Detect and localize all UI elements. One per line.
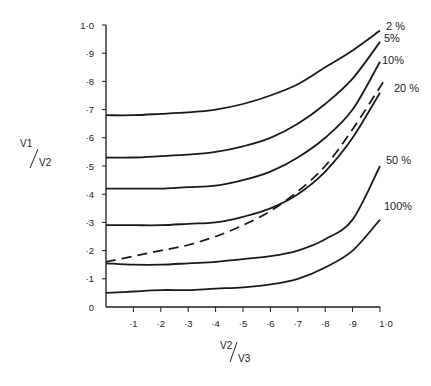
curve-label-100pct: 100%	[384, 200, 412, 212]
curve-label-20pct: 20 %	[394, 82, 419, 94]
y-tick-label: 0	[89, 302, 94, 313]
curve-label-2pct: 2 %	[386, 20, 405, 32]
curve-20pct	[106, 93, 380, 226]
x-tick-label: ·3	[184, 318, 192, 329]
chart: 0·1·2·3·4·5·6·7·8·91·0·1·2·3·4·5·6·7·8·9…	[0, 0, 431, 386]
y-axis-title-denominator: V2	[39, 157, 52, 168]
x-tick-label: ·1	[129, 318, 137, 329]
y-axis-title: V1 V2	[20, 138, 52, 168]
curves	[106, 31, 386, 293]
y-tick-label: ·5	[86, 161, 94, 172]
x-axis-title: V2 V3	[220, 340, 251, 364]
y-tick-label: ·7	[86, 104, 94, 115]
y-axis-title-slash	[30, 149, 38, 168]
x-tick-label: ·2	[157, 318, 165, 329]
x-tick-label: ·4	[211, 318, 219, 329]
curve-dashed	[106, 79, 386, 262]
y-axis-title-numerator: V1	[20, 138, 33, 149]
x-tick-label: ·6	[266, 318, 274, 329]
curve-2pct	[106, 31, 380, 116]
x-axis-title-numerator: V2	[220, 340, 233, 351]
x-axis-title-denominator: V3	[238, 353, 251, 364]
y-tick-label: ·9	[86, 48, 94, 59]
curve-label-10pct: 10%	[382, 54, 404, 66]
curve-100pct	[106, 220, 380, 293]
x-tick-label: ·7	[294, 318, 302, 329]
y-tick-label: ·3	[86, 217, 94, 228]
y-tick-label: ·1	[86, 273, 94, 284]
y-tick-label: ·6	[86, 132, 94, 143]
axes: 0·1·2·3·4·5·6·7·8·91·0·1·2·3·4·5·6·7·8·9…	[80, 20, 393, 330]
curve-10pct	[106, 62, 380, 189]
curve-labels: 2 %5%10%20 %50 %100%	[382, 20, 419, 212]
y-tick-label: ·8	[86, 76, 94, 87]
y-tick-label: ·2	[86, 245, 94, 256]
y-tick-label: 1·0	[80, 20, 94, 31]
x-tick-label: ·8	[321, 318, 329, 329]
x-tick-label: ·9	[348, 318, 356, 329]
x-tick-label: 1·0	[379, 318, 393, 329]
x-tick-label: ·5	[239, 318, 247, 329]
curve-label-50pct: 50 %	[386, 154, 411, 166]
curve-label-5pct: 5%	[384, 32, 400, 44]
y-tick-label: ·4	[86, 189, 94, 200]
